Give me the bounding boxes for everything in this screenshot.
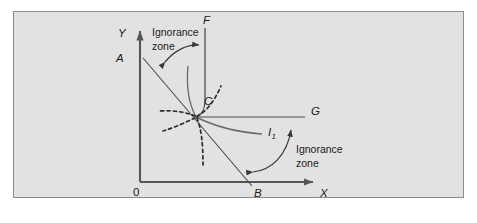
ignorance-zone-bottom-line2: zone: [296, 157, 319, 169]
figure-page: Y X 0 A B C F G I1 Ignorance zone Ignora…: [0, 0, 477, 223]
budget-line-ab: [143, 58, 252, 186]
point-label-a: A: [115, 52, 124, 64]
curve-inner-left: [187, 66, 196, 117]
ignorance-zone-top-line2: zone: [152, 40, 175, 52]
ignorance-zone-top-line1: Ignorance: [152, 26, 199, 38]
axis-group: [140, 31, 313, 182]
y-axis-label: Y: [118, 27, 127, 39]
point-label-b: B: [254, 187, 262, 199]
point-label-g: G: [311, 105, 320, 117]
ignorance-zone-annotation-bottom: Ignorance zone: [296, 143, 343, 169]
dashed-curve-lower-right: [197, 118, 203, 165]
diagram-canvas: Y X 0 A B C F G I1 Ignorance zone Ignora…: [0, 0, 477, 223]
point-label-c: C: [204, 95, 213, 107]
point-label-f: F: [203, 14, 211, 26]
diagram-svg: Y X 0 A B C F G I1 Ignorance zone Ignora…: [0, 0, 477, 223]
origin-label: 0: [133, 186, 139, 198]
x-axis-label: X: [319, 187, 329, 199]
ignorance-zone-bottom-line1: Ignorance: [296, 143, 343, 155]
curve-label-i1: I1: [268, 126, 276, 141]
curve-label-i1-subscript: 1: [272, 132, 276, 141]
ignorance-zone-annotation-top: Ignorance zone: [152, 26, 199, 52]
dashed-curve-upper-left: [159, 111, 195, 116]
dashed-curve-lower-left: [163, 118, 195, 131]
